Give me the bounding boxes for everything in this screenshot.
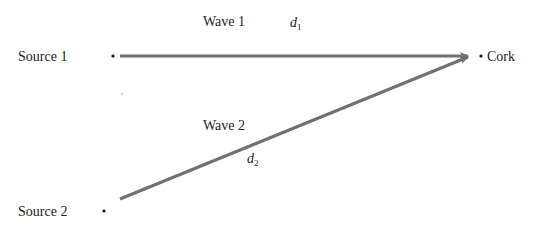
wave-1-distance: d1 <box>290 15 302 32</box>
wave-2-distance: d2 <box>247 151 259 168</box>
wave-2-distance-subscript: 2 <box>254 158 259 168</box>
cork-dot <box>479 54 482 57</box>
wave-1-label: Wave 1 <box>203 14 245 29</box>
source-1-dot <box>111 54 114 57</box>
source-1-label: Source 1 <box>18 49 67 64</box>
source-2-dot <box>102 209 105 212</box>
wave-1-distance-subscript: 1 <box>297 22 302 32</box>
wave-2-arrow <box>120 57 468 199</box>
wave-2-label: Wave 2 <box>203 118 245 133</box>
interference-diagram: Source 1 Source 2 Cork Wave 1 d1 Wave 2 … <box>0 0 538 231</box>
stray-mark <box>121 93 122 94</box>
cork-label: Cork <box>487 49 515 64</box>
source-2-label: Source 2 <box>18 204 67 219</box>
